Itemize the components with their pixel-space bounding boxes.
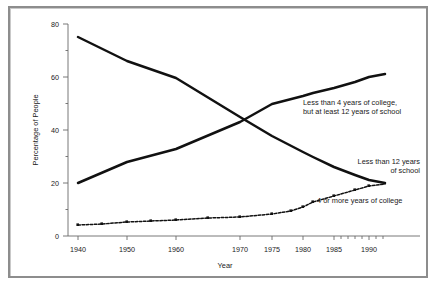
annotation-lower-line1: 4 or more years of college — [317, 196, 402, 205]
y-tick-label-40: 40 — [51, 126, 59, 135]
x-axis — [68, 236, 420, 240]
y-axis-title: Percentage of People — [31, 94, 40, 165]
annotation-upper: Less than 4 years of college, but at lea… — [303, 98, 402, 116]
annotation-upper-line1: Less than 4 years of college, — [303, 98, 397, 107]
y-tick-label-80: 80 — [51, 20, 59, 29]
x-tick-label-1940: 1940 — [70, 245, 86, 254]
y-tick-label-60: 60 — [51, 73, 59, 82]
chart-svg: 80 60 40 20 0 Percentage of People 1940 … — [0, 0, 436, 291]
annotation-middle: Less than 12 years of school — [358, 157, 421, 175]
annotation-lower: 4 or more years of college — [317, 196, 402, 205]
x-tick-label-1975: 1975 — [264, 245, 280, 254]
screenshot-root: 80 60 40 20 0 Percentage of People 1940 … — [0, 0, 436, 291]
x-tick-label-1960: 1960 — [168, 245, 184, 254]
x-tick-label-1970: 1970 — [232, 245, 248, 254]
x-axis-title: Year — [218, 261, 233, 270]
annotation-middle-line1: Less than 12 years — [358, 157, 421, 166]
series-less-than-4-years-college — [78, 74, 385, 183]
x-tick-label-1980: 1980 — [295, 245, 311, 254]
annotation-upper-line2: but at least 12 years of school — [303, 107, 402, 116]
x-tick-label-1985: 1985 — [326, 245, 342, 254]
y-tick-label-20: 20 — [51, 179, 59, 188]
annotation-middle-line2: of school — [390, 166, 420, 175]
y-tick-label-0: 0 — [55, 232, 59, 241]
x-tick-label-1950: 1950 — [119, 245, 135, 254]
x-tick-label-1990: 1990 — [361, 245, 377, 254]
chart-figure: 80 60 40 20 0 Percentage of People 1940 … — [0, 0, 436, 291]
y-axis — [63, 24, 68, 236]
series-4-or-more-markers — [76, 184, 370, 226]
